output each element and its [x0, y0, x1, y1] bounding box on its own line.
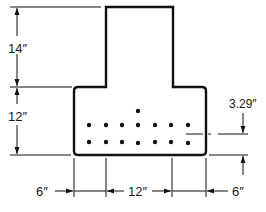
rebar: [153, 123, 157, 127]
rebar-top: [136, 109, 140, 113]
rebar: [120, 123, 124, 127]
rebar: [87, 140, 91, 144]
rebar: [120, 140, 124, 144]
label-stem-width: 12″: [128, 184, 147, 199]
reinforcement-bars: [87, 109, 190, 145]
rebar: [104, 123, 108, 127]
rebar: [136, 141, 140, 145]
label-stem-height: 14″: [8, 41, 27, 56]
rebar: [104, 140, 108, 144]
beam-outline: [74, 7, 206, 155]
rebar: [186, 123, 190, 127]
rebar: [169, 140, 173, 144]
rebar: [186, 141, 190, 145]
label-left-overhang: 6″: [36, 184, 48, 199]
rebar: [136, 123, 140, 127]
label-centroid-offset: 3.29″: [229, 97, 257, 111]
rebar: [153, 140, 157, 144]
label-flange-height: 12″: [8, 109, 27, 124]
label-right-overhang: 6″: [232, 184, 244, 199]
rebar: [169, 123, 173, 127]
left-extension-lines: [10, 7, 101, 155]
rebar: [87, 123, 91, 127]
beam-cross-section-diagram: 14″ 12″ 6″ 12″ 6″ 3.29″: [0, 0, 266, 212]
